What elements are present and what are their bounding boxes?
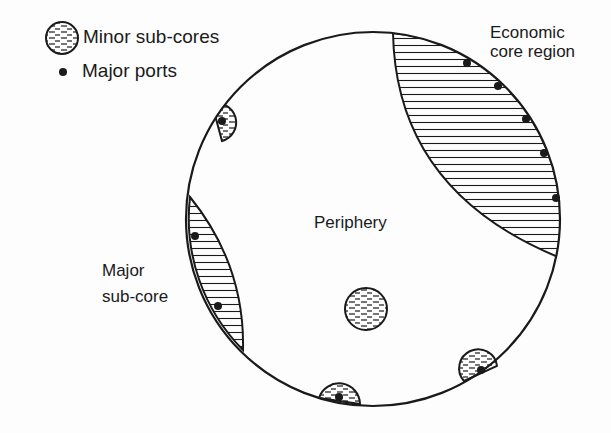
periphery-label: Periphery: [314, 214, 387, 232]
core-periphery-diagram: Minor sub-cores Major ports Economic cor…: [0, 0, 611, 433]
economic-core-label-line1: Economic: [490, 24, 565, 42]
port-dot: [522, 115, 530, 123]
port-dot: [214, 302, 222, 310]
legend-major-ports-label: Major ports: [82, 62, 177, 80]
economic-core-region: [393, 33, 562, 257]
major-subcore-label-line1: Major: [102, 262, 145, 280]
port-dot: [477, 366, 485, 374]
port-dot: [552, 194, 560, 202]
port-dot: [463, 59, 471, 67]
legend-port-dot-icon: [59, 68, 67, 76]
major-subcore-label-line2: sub-core: [102, 288, 168, 306]
legend-minor-subcores-label: Minor sub-cores: [83, 28, 219, 46]
port-dot: [494, 82, 502, 90]
port-dot: [218, 117, 226, 125]
minor-subcore-center: [345, 288, 387, 330]
port-dot: [191, 232, 199, 240]
legend-minor-subcore-icon: [46, 22, 78, 54]
port-dot: [335, 393, 343, 401]
economic-core-label-line2: core region: [490, 43, 575, 61]
port-dot: [540, 149, 548, 157]
major-subcore-region: [189, 197, 243, 350]
